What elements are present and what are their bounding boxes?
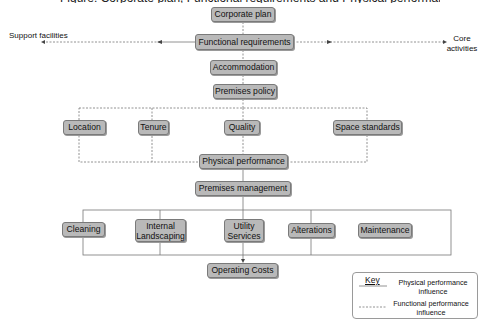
- node-cleaning: Cleaning: [62, 222, 105, 237]
- node-internal-landscaping: Internal Landscaping: [135, 219, 186, 242]
- legend-line-samples: [359, 283, 389, 323]
- node-corporate-plan: Corporate plan: [211, 7, 275, 22]
- node-premises-management: Premises management: [195, 181, 291, 196]
- node-utility-services: Utility Services: [224, 219, 264, 242]
- core-activities-label: Core activities: [443, 34, 481, 54]
- node-accommodation: Accommodation: [210, 60, 277, 75]
- node-quality: Quality: [224, 120, 260, 135]
- node-premises-policy: Premises policy: [213, 84, 277, 99]
- legend-physical-label: Physical performance influence: [393, 279, 473, 296]
- support-facilities-label: Support facilities: [9, 31, 68, 41]
- node-tenure: Tenure: [138, 120, 169, 135]
- node-location: Location: [63, 120, 106, 135]
- node-alterations: Alterations: [288, 223, 335, 238]
- node-space-standards: Space standards: [333, 120, 402, 135]
- legend: Key Physical performance influence Funct…: [352, 272, 478, 319]
- node-maintenance: Maintenance: [358, 223, 412, 238]
- node-physical-performance: Physical performance: [199, 154, 288, 169]
- legend-functional-label: Functional performance influence: [391, 300, 471, 317]
- node-operating-costs: Operating Costs: [207, 263, 278, 278]
- node-functional-requirements: Functional requirements: [195, 34, 294, 50]
